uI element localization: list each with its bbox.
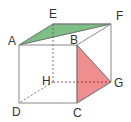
label-B: B [70,33,78,47]
triangle-AEF [19,24,111,45]
label-F: F [116,9,123,23]
label-G: G [114,76,123,90]
triangle-BCG [77,45,111,103]
label-E: E [49,7,57,21]
label-A: A [8,34,16,48]
cube-diagram: A E F B H G D C [0,0,131,122]
label-D: D [12,105,21,119]
label-H: H [42,74,51,88]
label-C: C [73,106,82,120]
